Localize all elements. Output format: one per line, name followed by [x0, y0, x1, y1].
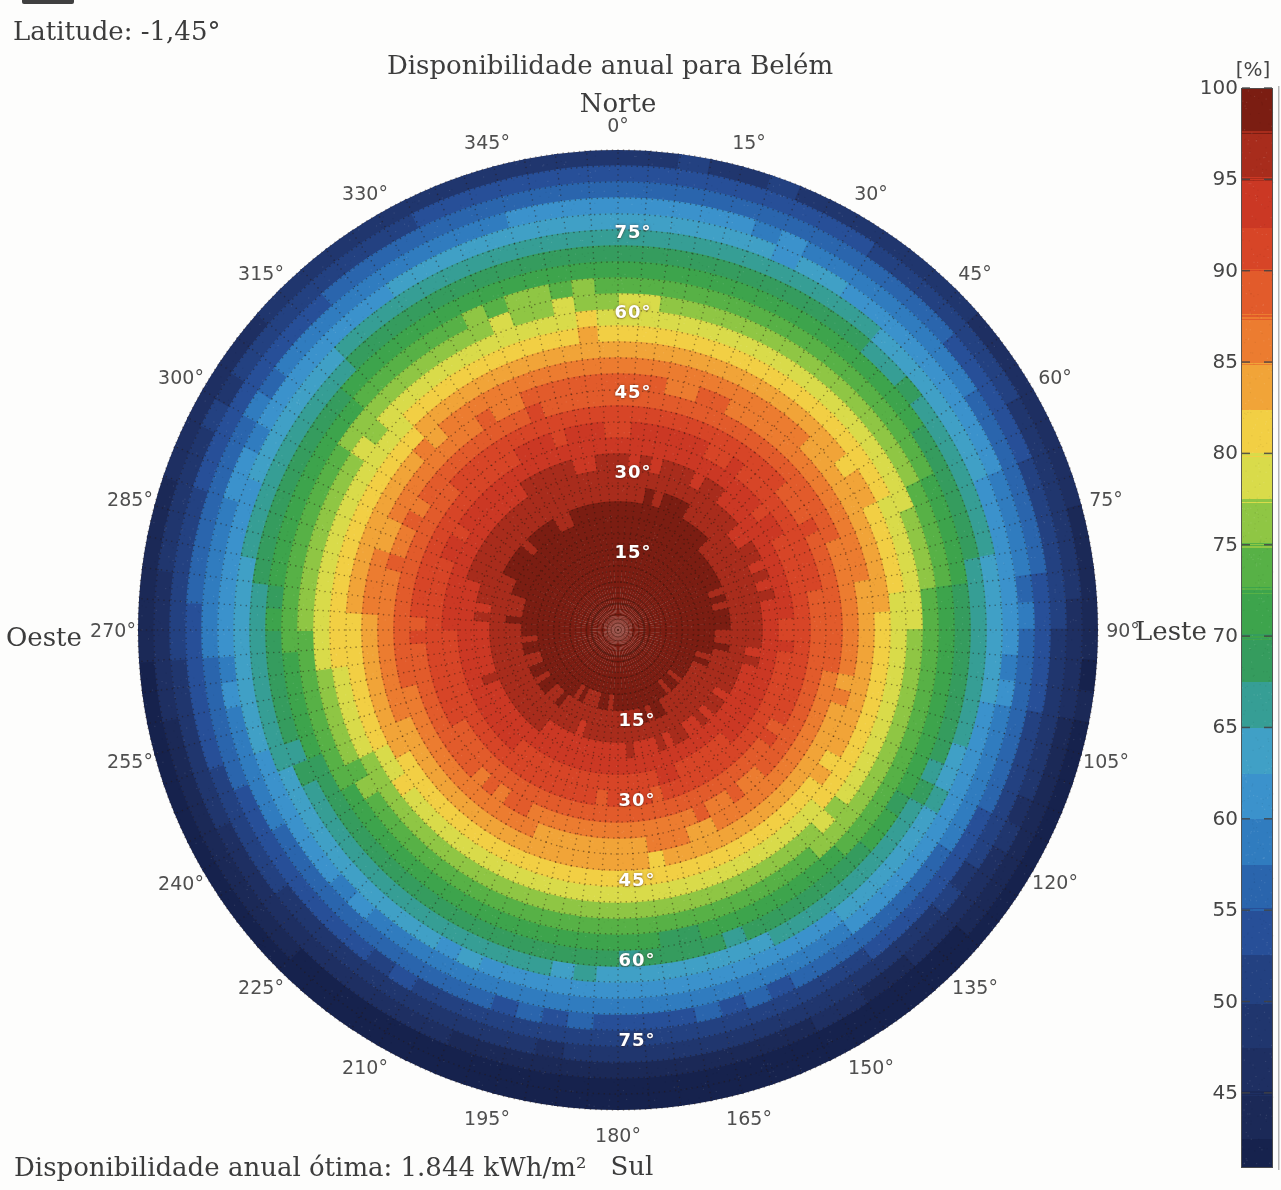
azimuth-label-240: 240°: [158, 872, 204, 894]
colorbar-tick-85: 85: [1213, 349, 1238, 373]
colorbar-tick-90: 90: [1213, 258, 1238, 282]
chart-title: Disponibilidade anual para Belém: [387, 50, 833, 80]
azimuth-label-255: 255°: [107, 750, 153, 772]
tilt-label-south-30: 30°: [618, 789, 655, 810]
polar-heatmap-canvas: [0, 0, 1281, 1190]
tilt-label-north-30: 30°: [614, 461, 651, 482]
azimuth-label-165: 165°: [726, 1107, 772, 1129]
azimuth-label-75: 75°: [1089, 488, 1123, 510]
latitude-label: Latitude: -1,45°: [13, 16, 220, 46]
azimuth-label-120: 120°: [1032, 871, 1078, 893]
azimuth-label-345: 345°: [464, 131, 510, 153]
azimuth-label-270: 270°: [90, 619, 136, 641]
compass-label-east: Leste: [1135, 616, 1207, 646]
colorbar-tick-60: 60: [1213, 806, 1238, 830]
tilt-label-south-75: 75°: [618, 1029, 655, 1050]
azimuth-label-105: 105°: [1083, 750, 1129, 772]
azimuth-label-135: 135°: [952, 976, 998, 998]
tilt-label-south-15: 15°: [618, 709, 655, 730]
azimuth-label-300: 300°: [158, 366, 204, 388]
footer-optimal-availability: Disponibilidade anual ótima: 1.844 kWh/m…: [14, 1152, 586, 1182]
compass-label-south: Sul: [611, 1151, 654, 1181]
azimuth-label-330: 330°: [342, 182, 388, 204]
azimuth-label-0: 0°: [607, 114, 629, 136]
tilt-label-north-75: 75°: [614, 221, 651, 242]
azimuth-label-15: 15°: [732, 131, 766, 153]
tilt-label-north-15: 15°: [614, 541, 651, 562]
azimuth-label-180: 180°: [595, 1124, 641, 1146]
azimuth-label-30: 30°: [854, 182, 888, 204]
azimuth-label-90: 90°: [1106, 619, 1140, 641]
tilt-label-south-45: 45°: [618, 869, 655, 890]
azimuth-label-285: 285°: [107, 488, 153, 510]
tilt-label-north-60: 60°: [614, 301, 651, 322]
colorbar-tick-80: 80: [1213, 440, 1238, 464]
colorbar-tick-75: 75: [1213, 532, 1238, 556]
colorbar-title: [%]: [1236, 57, 1271, 81]
tilt-label-north-45: 45°: [614, 381, 651, 402]
colorbar-tick-95: 95: [1213, 166, 1238, 190]
colorbar-tick-50: 50: [1213, 989, 1238, 1013]
azimuth-label-195: 195°: [464, 1107, 510, 1129]
colorbar-tick-65: 65: [1213, 714, 1238, 738]
azimuth-label-315: 315°: [238, 262, 284, 284]
compass-label-west: Oeste: [6, 622, 82, 652]
azimuth-label-150: 150°: [848, 1056, 894, 1078]
azimuth-label-60: 60°: [1038, 366, 1072, 388]
azimuth-label-45: 45°: [958, 262, 992, 284]
azimuth-label-210: 210°: [342, 1056, 388, 1078]
tilt-label-south-60: 60°: [618, 949, 655, 970]
scan-artifact: [22, 0, 74, 4]
solar-availability-figure: Latitude: -1,45° Disponibilidade anual p…: [0, 0, 1281, 1190]
azimuth-label-225: 225°: [238, 976, 284, 998]
colorbar-tick-45: 45: [1213, 1080, 1238, 1104]
colorbar-tick-70: 70: [1213, 623, 1238, 647]
colorbar-tick-55: 55: [1213, 897, 1238, 921]
colorbar-tick-100: 100: [1200, 75, 1238, 99]
